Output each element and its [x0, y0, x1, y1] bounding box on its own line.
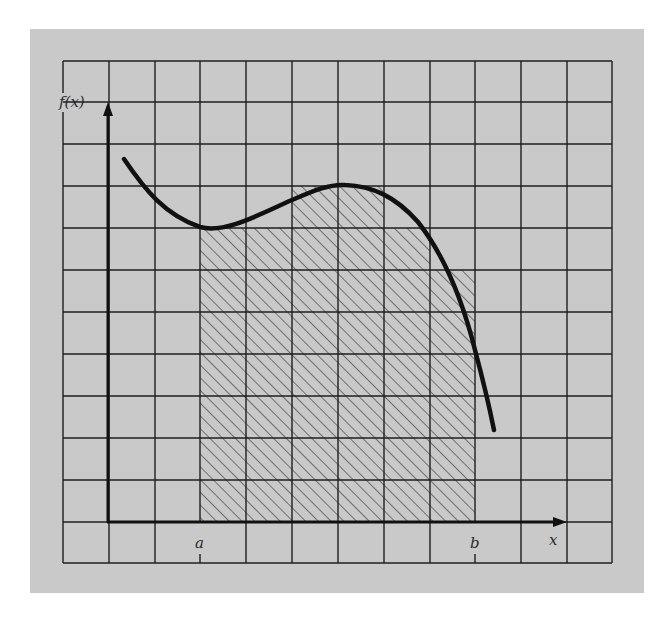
y-axis-label: f(x)	[58, 93, 85, 111]
x-axis-label: x	[549, 531, 558, 549]
marker-a-label: a	[195, 534, 204, 552]
area-under-curve-diagram: f(x) x a b	[0, 0, 670, 619]
marker-b-label: b	[470, 534, 480, 552]
